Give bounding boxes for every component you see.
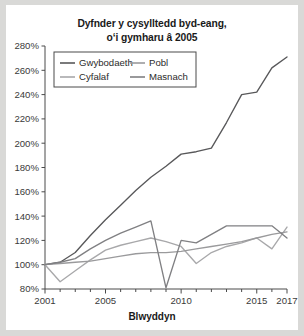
- data-series-group: [45, 57, 287, 288]
- series-line-pobl: [45, 232, 287, 265]
- y-tick-label: 160%: [14, 186, 39, 197]
- x-axis-title: Blwyddyn: [6, 311, 298, 322]
- series-line-masnach: [45, 221, 287, 288]
- y-tick-label: 120%: [14, 235, 39, 246]
- y-tick-label: 80%: [20, 283, 40, 294]
- x-tick-label: 2001: [34, 295, 55, 306]
- y-axis-tick-labels: 80%100%120%140%160%180%200%220%240%260%2…: [14, 40, 39, 294]
- legend-label-masnach: Masnach: [149, 71, 188, 82]
- y-tick-label: 220%: [14, 113, 39, 124]
- x-axis-tick-marks: [45, 289, 287, 294]
- line-chart-plot: 80%100%120%140%160%180%200%220%240%260%2…: [6, 5, 298, 330]
- legend-label-gwybodaeth: Gwybodaeth: [79, 57, 133, 68]
- legend-label-pobl: Pobl: [149, 57, 168, 68]
- x-tick-label: 2010: [170, 295, 191, 306]
- series-line-gwybodaeth: [45, 57, 287, 265]
- y-tick-label: 100%: [14, 259, 39, 270]
- chart-legend: GwybodaethPoblCyfalafMasnach: [54, 52, 196, 87]
- x-tick-label: 2005: [95, 295, 116, 306]
- y-tick-label: 200%: [14, 138, 39, 149]
- legend-label-cyfalaf: Cyfalaf: [79, 71, 109, 82]
- x-tick-label: 2017: [276, 295, 297, 306]
- y-tick-label: 280%: [14, 40, 39, 51]
- y-tick-label: 240%: [14, 89, 39, 100]
- y-axis-tick-marks: [42, 46, 46, 289]
- y-tick-label: 260%: [14, 65, 39, 76]
- y-tick-label: 180%: [14, 162, 39, 173]
- x-tick-label: 2015: [246, 295, 267, 306]
- y-tick-label: 140%: [14, 211, 39, 222]
- chart-card: Dyfnder y cysylltedd byd-eang, o‘i gymha…: [6, 5, 298, 330]
- x-axis-tick-labels: 20012005201020152017: [34, 295, 297, 306]
